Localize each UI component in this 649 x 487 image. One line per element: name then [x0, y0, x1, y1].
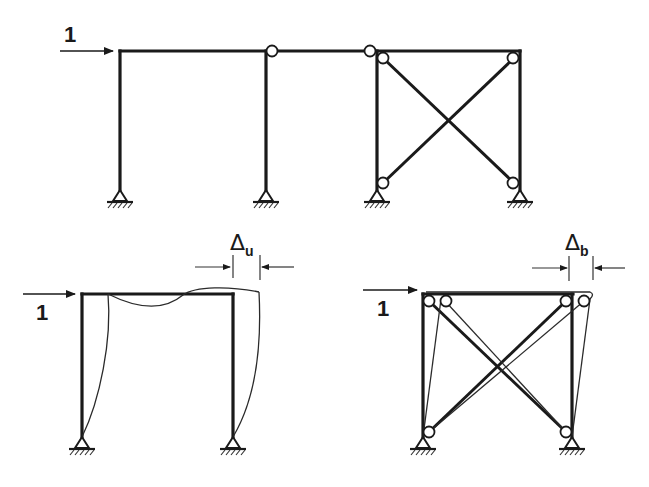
- hinge-icon: [378, 178, 389, 189]
- braced-frame: [363, 256, 625, 455]
- braced-deflected-left-column: [423, 299, 441, 437]
- unbraced-frame: [23, 255, 294, 455]
- pin-support-icon: [507, 190, 533, 208]
- hinge-icon: [378, 53, 389, 64]
- pin-support-icon: [253, 190, 279, 208]
- bottom-left-load-label: 1: [36, 302, 48, 324]
- pin-support-icon: [69, 437, 95, 455]
- delta-u-subscript: u: [245, 243, 254, 259]
- structural-diagram: 1 1 Δu 1 Δb: [0, 0, 649, 487]
- braced-deflected-right-column: [572, 299, 590, 437]
- hinge-icon: [508, 53, 519, 64]
- hinge-icon: [424, 427, 435, 438]
- delta-b-symbol: Δ: [565, 230, 580, 255]
- hinge-icon: [441, 296, 452, 307]
- pin-support-icon: [559, 437, 585, 455]
- unbraced-deflected-right-column: [233, 292, 260, 437]
- braced-deflected-brace-2: [429, 301, 584, 432]
- hinge-icon: [267, 46, 278, 57]
- unbraced-deflected-beam: [108, 288, 259, 306]
- pin-support-icon: [220, 437, 246, 455]
- diagram-drawing: [0, 0, 649, 487]
- pin-support-icon: [107, 190, 133, 208]
- delta-u-label: Δu: [230, 232, 254, 254]
- delta-b-subscript: b: [580, 243, 589, 259]
- bottom-right-load-label: 1: [377, 298, 389, 320]
- delta-u-symbol: Δ: [230, 230, 245, 255]
- top-load-label: 1: [64, 24, 76, 46]
- hinge-icon: [561, 296, 572, 307]
- hinge-icon: [508, 178, 519, 189]
- hinge-icon: [579, 296, 590, 307]
- unbraced-deflected-left-column: [82, 294, 109, 437]
- hinge-icon: [365, 46, 376, 57]
- hinge-icon: [424, 296, 435, 307]
- hinge-icon: [561, 427, 572, 438]
- pin-support-icon: [364, 190, 390, 208]
- top-frame-system: [60, 46, 533, 209]
- delta-b-label: Δb: [565, 232, 589, 254]
- pin-support-icon: [410, 437, 436, 455]
